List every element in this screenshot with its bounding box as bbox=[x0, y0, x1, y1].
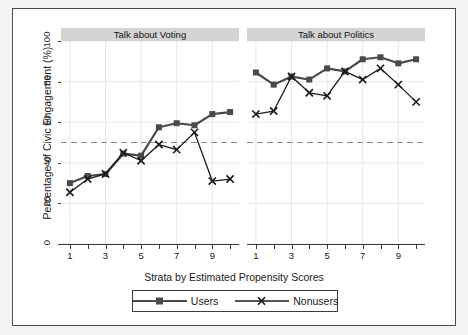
x-tick-mark bbox=[309, 245, 310, 249]
legend-label-nonusers: Nonusers bbox=[293, 295, 338, 307]
x-tick-label: 7 bbox=[170, 250, 184, 261]
x-tick-mark bbox=[159, 245, 160, 249]
y-tick-label: 80 bbox=[41, 69, 52, 91]
x-tick-mark bbox=[256, 245, 257, 249]
x-tick-mark bbox=[416, 245, 417, 249]
x-tick-mark bbox=[381, 245, 382, 249]
x-tick-mark bbox=[212, 245, 213, 249]
plot-area bbox=[247, 41, 425, 244]
legend-entry-nonusers: Nonusers bbox=[234, 295, 338, 307]
legend-marker-square-icon bbox=[132, 295, 188, 307]
x-tick-mark bbox=[398, 245, 399, 249]
y-tick-label: 60 bbox=[41, 110, 52, 132]
plot-area bbox=[61, 41, 239, 244]
chart-panel-2: Talk about Politics bbox=[247, 28, 425, 244]
legend-label-users: Users bbox=[191, 295, 218, 307]
x-tick-label: 9 bbox=[391, 250, 405, 261]
y-tick-label: 40 bbox=[41, 150, 52, 172]
x-tick-mark bbox=[230, 245, 231, 249]
x-tick-label: 7 bbox=[356, 250, 370, 261]
legend-entry-users: Users bbox=[132, 295, 218, 307]
x-tick-mark bbox=[123, 245, 124, 249]
panel-title: Talk about Voting bbox=[61, 28, 239, 41]
x-tick-mark bbox=[327, 245, 328, 249]
x-tick-mark bbox=[274, 245, 275, 249]
chart-legend: Users Nonusers bbox=[132, 290, 338, 312]
x-tick-label: 5 bbox=[320, 250, 334, 261]
x-tick-mark bbox=[141, 245, 142, 249]
x-axis-title: Strata by Estimated Propensity Scores bbox=[13, 271, 455, 283]
x-tick-mark bbox=[363, 245, 364, 249]
x-tick-mark bbox=[88, 245, 89, 249]
x-tick-label: 9 bbox=[205, 250, 219, 261]
x-tick-label: 3 bbox=[99, 250, 113, 261]
x-tick-mark bbox=[70, 245, 71, 249]
x-tick-mark bbox=[177, 245, 178, 249]
x-tick-mark bbox=[292, 245, 293, 249]
x-tick-mark bbox=[106, 245, 107, 249]
x-tick-mark bbox=[345, 245, 346, 249]
panel-title: Talk about Politics bbox=[247, 28, 425, 41]
x-tick-label: 5 bbox=[134, 250, 148, 261]
x-tick-label: 1 bbox=[63, 250, 77, 261]
chart-figure: Percentage of Civic Engagement (%) 02040… bbox=[12, 8, 456, 326]
legend-marker-x-icon bbox=[234, 295, 290, 307]
y-tick-label: 100 bbox=[41, 29, 52, 51]
x-tick-label: 1 bbox=[249, 250, 263, 261]
chart-panel-1: Talk about Voting bbox=[61, 28, 239, 244]
x-tick-label: 3 bbox=[285, 250, 299, 261]
y-tick-label: 0 bbox=[41, 232, 52, 254]
x-tick-mark bbox=[195, 245, 196, 249]
y-tick-label: 20 bbox=[41, 191, 52, 213]
